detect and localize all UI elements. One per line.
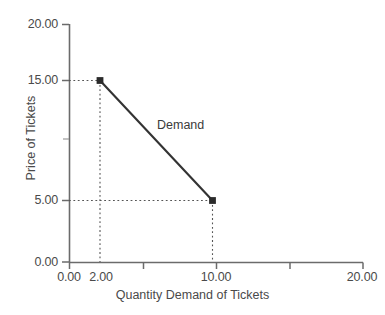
y-tick-label-0: 0.00 bbox=[0, 255, 58, 269]
y-axis-title: Price of Tickets bbox=[24, 58, 38, 218]
demand-curve-label: Demand bbox=[157, 118, 204, 132]
data-point-marker-a[interactable] bbox=[97, 77, 104, 84]
demand-curve-chart: 20.00 15.00 5.00 0.00 0.00 2.00 10.00 20… bbox=[0, 0, 385, 315]
x-tick-label-2: 2.00 bbox=[89, 270, 113, 284]
x-tick-label-0: 0.00 bbox=[57, 270, 81, 284]
y-tick-label-20: 20.00 bbox=[0, 17, 58, 31]
data-point-marker-b[interactable] bbox=[209, 197, 216, 204]
x-tick-label-10: 10.00 bbox=[201, 270, 231, 284]
demand-curve-line[interactable] bbox=[100, 81, 213, 201]
x-tick-label-20: 20.00 bbox=[347, 270, 377, 284]
x-axis-title: Quantity Demand of Tickets bbox=[0, 288, 385, 302]
